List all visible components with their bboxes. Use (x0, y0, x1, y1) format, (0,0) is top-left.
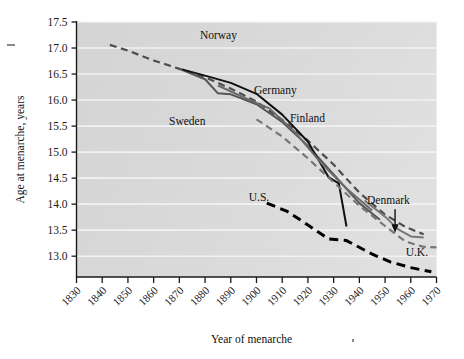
x-tick-label: 1850 (110, 284, 134, 308)
y-tick-label: 14.5 (47, 172, 67, 184)
y-tick-label: 17.0 (47, 42, 67, 54)
x-tick-label: 1940 (342, 284, 366, 308)
y-tick-label: 13.0 (47, 250, 67, 262)
y-tick-label: 14.0 (47, 198, 67, 210)
series-label-uk: U.K. (406, 246, 428, 258)
y-axis-title: Age at menarche, years (14, 95, 27, 203)
x-tick-label: 1920 (290, 284, 314, 308)
y-tick-label: 17.5 (47, 16, 67, 28)
y-tick-label: 13.5 (47, 224, 67, 236)
x-tick-label: 1870 (162, 284, 186, 308)
x-tick-label: 1910 (265, 284, 289, 308)
y-tick-label: 15.0 (47, 146, 67, 158)
y-tick-label: 16.5 (47, 68, 67, 80)
scan-artifact-dot (352, 339, 354, 342)
x-tick-label: 1950 (367, 284, 391, 308)
chart-figure: 17.517.016.516.015.515.014.514.013.513.0… (0, 0, 464, 359)
x-tick-label: 1840 (85, 284, 109, 308)
y-tick-label: 16.0 (47, 94, 67, 106)
x-tick-label: 1970 (419, 284, 443, 308)
plot-background-shading (77, 22, 437, 277)
x-tick-label: 1930 (316, 284, 340, 308)
y-tick-label: 15.5 (47, 120, 67, 132)
x-tick-label: 1860 (136, 284, 160, 308)
x-axis-title: Year of menarche (211, 333, 292, 345)
x-tick-label: 1960 (393, 284, 417, 308)
scan-artifact-mark (7, 44, 15, 46)
series-label-germany: Germany (254, 84, 297, 97)
menarche-age-line-chart: 17.517.016.516.015.515.014.514.013.513.0… (0, 0, 464, 359)
series-label-denmark: Denmark (367, 194, 410, 206)
series-label-sweden: Sweden (169, 115, 206, 127)
x-tick-label: 1900 (239, 284, 263, 308)
x-tick-label: 1890 (213, 284, 237, 308)
x-tick-label: 1880 (187, 284, 211, 308)
y-axis: 17.517.016.516.015.515.014.514.013.513.0 (47, 16, 76, 277)
x-tick-label: 1830 (59, 284, 83, 308)
series-label-us: U.S. (249, 191, 270, 203)
x-axis: 1830184018501860187018801890190019101920… (59, 277, 443, 308)
series-label-norway: Norway (200, 29, 237, 42)
series-label-finland: Finland (290, 112, 325, 124)
